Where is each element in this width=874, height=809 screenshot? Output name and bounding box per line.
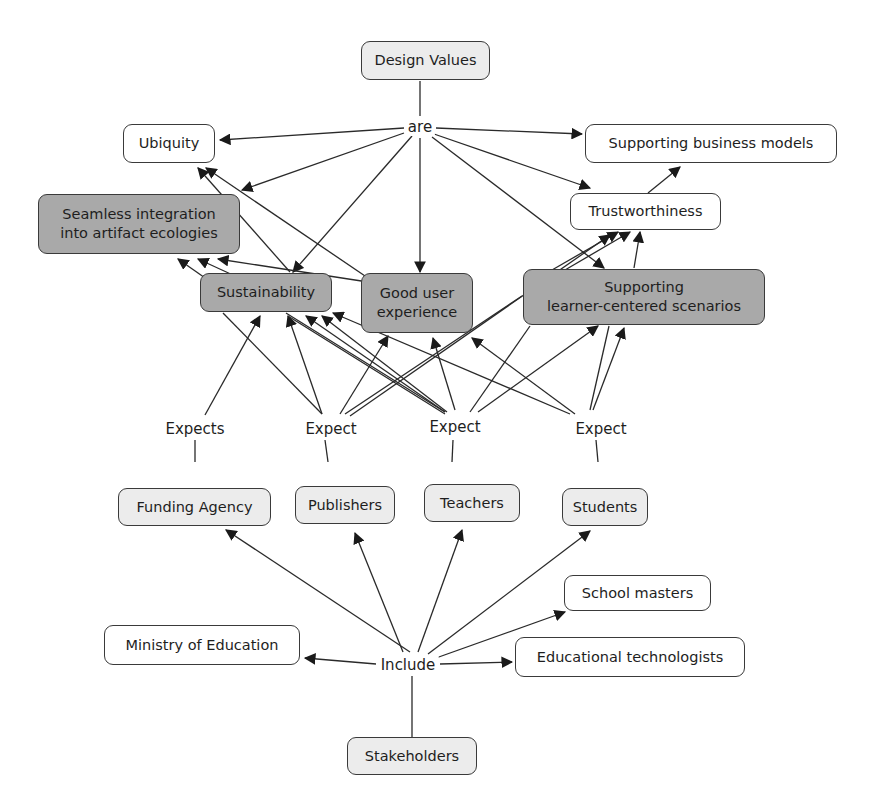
node-label: Funding Agency [137,498,253,517]
concept-map: Design Values Ubiquity Supporting busine… [0,0,874,809]
node-label: Publishers [308,496,382,515]
node-label: Supporting business models [609,134,814,153]
node-label-line1: Supporting [604,278,684,297]
node-ubiquity[interactable]: Ubiquity [123,124,215,163]
node-label: Trustworthiness [589,202,703,221]
link-label-expect-students: Expect [572,420,629,438]
node-good-user-experience[interactable]: Good user experience [361,273,473,333]
node-supporting-business-models[interactable]: Supporting business models [585,124,837,163]
node-sustainability[interactable]: Sustainability [200,273,332,312]
node-stakeholders[interactable]: Stakeholders [347,737,477,775]
link-label-are: are [405,118,435,136]
link-label-include: Include [378,656,439,674]
node-label: Teachers [440,494,504,513]
node-label: Ministry of Education [126,636,279,655]
node-ministry-of-education[interactable]: Ministry of Education [104,625,300,665]
node-label-line1: Good user [380,284,454,303]
node-teachers[interactable]: Teachers [424,484,520,522]
node-students[interactable]: Students [562,488,648,526]
node-label: Students [573,498,638,517]
node-label: Educational technologists [537,648,723,667]
node-funding-agency[interactable]: Funding Agency [118,488,271,526]
node-label: School masters [582,584,693,603]
node-label: Stakeholders [365,747,459,766]
node-label: Ubiquity [139,134,200,153]
node-publishers[interactable]: Publishers [295,486,395,524]
link-label-expect-publishers: Expect [302,420,359,438]
node-educational-technologists[interactable]: Educational technologists [515,637,745,677]
node-label-line2: learner-centered scenarios [547,297,741,316]
node-seamless-integration[interactable]: Seamless integration into artifact ecolo… [38,194,240,254]
node-trustworthiness[interactable]: Trustworthiness [570,193,721,230]
node-label-line2: into artifact ecologies [60,224,218,243]
node-design-values[interactable]: Design Values [361,41,490,80]
node-school-masters[interactable]: School masters [564,575,711,611]
node-learner-centered-scenarios[interactable]: Supporting learner-centered scenarios [523,269,765,325]
node-label-line1: Seamless integration [62,205,215,224]
node-label-line2: experience [377,303,457,322]
node-label: Sustainability [217,283,315,302]
connector-lines [0,0,874,809]
link-label-expects-funding: Expects [162,420,227,438]
node-label: Design Values [374,51,476,70]
link-label-expect-teachers: Expect [426,418,483,436]
